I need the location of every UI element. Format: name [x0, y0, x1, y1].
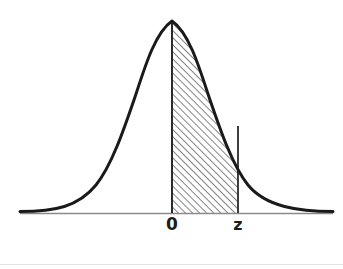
- bottom-divider-rule: [0, 264, 343, 265]
- axis-label-z: z: [223, 217, 253, 233]
- normal-distribution-figure: 0 z: [0, 0, 343, 269]
- axis-label-zero: 0: [157, 216, 187, 233]
